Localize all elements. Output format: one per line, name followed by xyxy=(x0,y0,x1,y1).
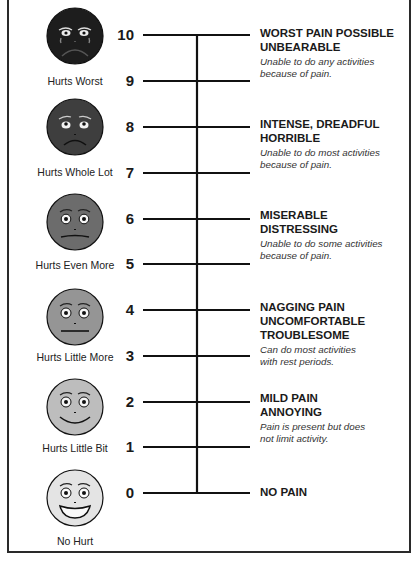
smiling-face-icon xyxy=(47,379,103,435)
description-heading: UNCOMFORTABLE xyxy=(260,314,410,328)
scale-number-6: 6 xyxy=(104,210,134,227)
sad-face-icon xyxy=(47,99,103,155)
frowning-face-icon xyxy=(47,194,103,250)
face-label-hurts-little-more: Hurts Little More xyxy=(0,351,150,363)
scale-number-0: 0 xyxy=(104,484,134,501)
description-detail: Unable to do most activitiesbecause of p… xyxy=(260,147,410,171)
description-heading: UNBEARABLE xyxy=(260,40,410,54)
description-level-6: MISERABLE DISTRESSING Unable to do some … xyxy=(260,208,410,262)
description-heading: WORST PAIN POSSIBLE xyxy=(260,26,410,40)
description-detail: Pain is present but doesnot limit activi… xyxy=(260,421,410,445)
face-label-no-hurt: No Hurt xyxy=(0,535,150,547)
scale-number-10: 10 xyxy=(104,26,134,43)
description-level-8: INTENSE, DREADFUL HORRIBLE Unable to do … xyxy=(260,117,410,171)
face-label-hurts-worst: Hurts Worst xyxy=(0,75,150,87)
description-detail: Unable to do some activitiesbecause of p… xyxy=(260,238,410,262)
scale-number-2: 2 xyxy=(104,393,134,410)
scale-number-4: 4 xyxy=(104,301,134,318)
description-heading: HORRIBLE xyxy=(260,131,410,145)
description-heading: NAGGING PAIN xyxy=(260,300,410,314)
face-label-hurts-whole-lot: Hurts Whole Lot xyxy=(0,166,150,178)
description-detail: Can do most activitieswith rest periods. xyxy=(260,344,410,368)
description-heading: ANNOYING xyxy=(260,405,410,419)
face-label-hurts-little-bit: Hurts Little Bit xyxy=(0,442,150,454)
description-detail: Unable to do any activitiesbecause of pa… xyxy=(260,56,410,80)
description-heading: MISERABLE xyxy=(260,208,410,222)
description-heading: TROUBLESOME xyxy=(260,328,410,342)
face-label-hurts-even-more: Hurts Even More xyxy=(0,259,150,271)
description-level-4: NAGGING PAIN UNCOMFORTABLE TROUBLESOME C… xyxy=(260,300,410,368)
neutral-face-icon xyxy=(47,289,103,345)
description-level-2: MILD PAIN ANNOYING Pain is present but d… xyxy=(260,391,410,445)
description-heading: INTENSE, DREADFUL xyxy=(260,117,410,131)
description-heading: DISTRESSING xyxy=(260,222,410,236)
description-heading: MILD PAIN xyxy=(260,391,410,405)
description-level-0: NO PAIN xyxy=(260,485,410,499)
scale-number-8: 8 xyxy=(104,118,134,135)
grinning-face-icon xyxy=(47,470,103,526)
description-heading: NO PAIN xyxy=(260,485,410,499)
crying-face-icon xyxy=(47,8,103,64)
description-level-10: WORST PAIN POSSIBLE UNBEARABLE Unable to… xyxy=(260,26,410,80)
